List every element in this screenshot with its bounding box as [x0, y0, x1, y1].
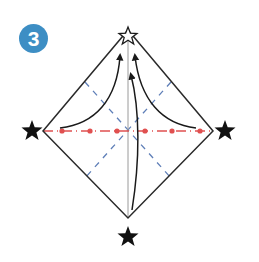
arrow-right-to-top [135, 56, 196, 128]
arrow-bottom-to-top [131, 75, 138, 210]
arrow-left-to-top [60, 56, 120, 128]
origami-fold-diagram [0, 0, 259, 262]
left-filled-star-icon [22, 120, 43, 140]
right-filled-star-icon [215, 120, 236, 140]
bottom-filled-star-icon [118, 226, 139, 246]
